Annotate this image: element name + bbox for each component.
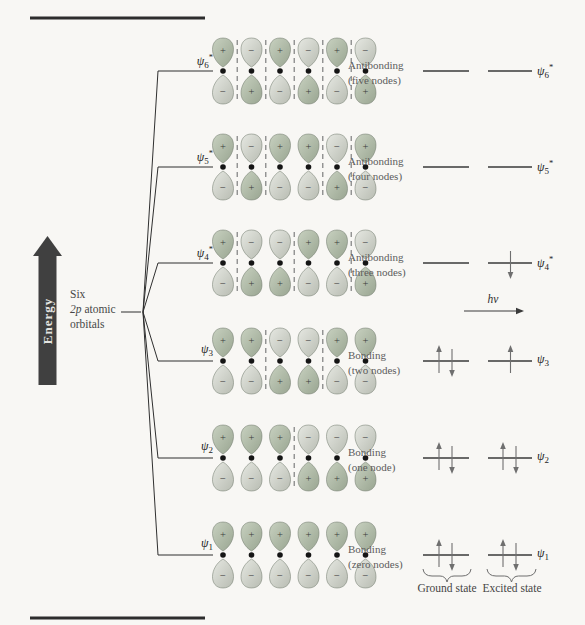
atom-dot [277,358,283,364]
lobe-sign: + [220,237,226,248]
atom-dot [306,68,312,74]
lobe-sign: − [334,141,340,152]
lobe-sign: + [306,237,312,248]
atom-dot [249,260,255,266]
lobe-sign: − [306,570,312,581]
orbital-description-1: Bonding(zero nodes) [348,542,403,572]
ground-state-brace [423,569,471,582]
atom-dot [334,455,340,461]
lobe-sign: − [334,570,340,581]
electron-up-arrowhead [500,442,506,449]
electron-down-arrowhead [513,564,519,571]
lobe-sign: + [334,529,340,540]
lobe-sign: + [249,278,255,289]
state-psi-label-1: ψ1 [537,546,549,562]
lobe-sign: − [220,86,226,97]
lobe-sign: + [249,432,255,443]
lobe-sign: − [363,45,369,56]
atom-dot [249,552,255,558]
electron-down-arrowhead [513,467,519,474]
state-psi-label-2: ψ2 [537,449,549,465]
atom-dot [306,164,312,170]
molecular-orbital-figure: +−−++−−++−−++−−++−+−−++−+−−+−++−+−−++−+−… [0,0,585,625]
left-psi-label-4: ψ4* [151,244,213,262]
lobe-sign: + [277,432,283,443]
atom-dot [277,164,283,170]
lobe-sign: + [334,473,340,484]
lobe-sign: + [363,335,369,346]
state-psi-label-6: ψ6* [537,62,553,80]
source-orbitals-line2: 2p atomic [70,302,116,317]
lobe-sign: − [277,473,283,484]
left-psi-label-2: ψ2 [151,439,213,455]
lobe-sign: + [363,529,369,540]
atom-dot [334,260,340,266]
lobe-sign: + [334,45,340,56]
electron-up-arrowhead [436,539,442,546]
orbital-description-2: Bonding(one node) [348,445,395,475]
atom-dot [220,552,226,558]
atom-dot [220,260,226,266]
lobe-sign: + [249,182,255,193]
lobe-sign: + [277,529,283,540]
atom-dot [249,164,255,170]
lobe-sign: + [249,86,255,97]
lobe-sign: − [249,45,255,56]
lobe-sign: − [220,278,226,289]
top-rule-bar [30,17,205,20]
lobe-sign: + [277,45,283,56]
lobe-sign: − [306,45,312,56]
atom-dot [220,68,226,74]
lobe-sign: + [334,182,340,193]
electron-down-arrowhead [449,370,455,377]
electron-down-arrowhead [508,272,514,279]
lobe-sign: − [249,473,255,484]
atom-dot [306,552,312,558]
lobe-sign: + [363,141,369,152]
excited-state-label: Excited state [467,582,557,594]
atom-dot [334,552,340,558]
electron-down-arrowhead [449,467,455,474]
atom-dot [277,552,283,558]
atom-dot [277,260,283,266]
electron-up-arrowhead [500,539,506,546]
atom-dot [220,455,226,461]
left-psi-label-6: ψ6* [151,52,213,70]
lobe-sign: − [363,237,369,248]
orbital-description-4: Antibonding(three nodes) [348,250,406,280]
excited-state-brace [487,569,536,582]
lobe-sign: − [334,86,340,97]
atom-dot [249,68,255,74]
bottom-rule-bar [30,617,205,620]
atom-dot [277,455,283,461]
lobe-sign: − [220,473,226,484]
electron-up-arrowhead [436,442,442,449]
source-orbitals-line1: Six [70,287,116,302]
state-psi-label-3: ψ3 [537,352,549,368]
orbital-description-3: Bonding(two nodes) [348,348,400,378]
lobe-sign: + [277,376,283,387]
source-orbitals-line3: orbitals [70,317,116,332]
source-orbitals-label: Six 2p atomic orbitals [70,287,116,332]
hv-arrowhead [516,308,524,314]
orbital-description-6: Antibonding(five nodes) [348,58,404,88]
lobe-sign: − [220,376,226,387]
lobe-sign: − [277,335,283,346]
lobe-sign: + [306,376,312,387]
lobe-sign: + [249,335,255,346]
atom-dot [334,358,340,364]
left-psi-label-1: ψ1 [151,536,213,552]
atom-dot [306,358,312,364]
lobe-sign: + [277,278,283,289]
lobe-sign: − [277,570,283,581]
lobe-sign: + [306,86,312,97]
lobe-sign: − [277,237,283,248]
lobe-sign: − [306,278,312,289]
lobe-sign: − [334,278,340,289]
atom-dot [220,358,226,364]
lobe-sign: + [306,473,312,484]
lobe-sign: − [220,182,226,193]
atom-dot [334,164,340,170]
atom-dot [306,455,312,461]
atom-dot [334,68,340,74]
